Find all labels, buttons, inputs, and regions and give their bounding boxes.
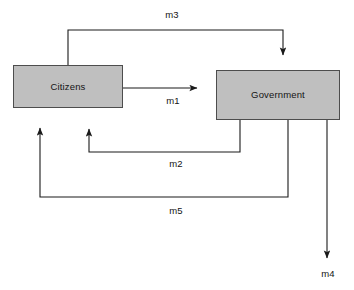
edge-label-m2: m2: [169, 159, 183, 169]
edge-label-m5: m5: [169, 206, 183, 216]
edge-m2-path: [89, 120, 240, 152]
node-government[interactable]: Government: [216, 70, 340, 120]
edge-label-m1: m1: [166, 96, 180, 106]
node-citizens[interactable]: Citizens: [13, 65, 123, 108]
edge-m3-path: [68, 30, 283, 65]
node-government-label: Government: [251, 90, 305, 100]
diagram-edges-layer: [0, 0, 354, 290]
edge-m5-path: [40, 120, 288, 197]
node-citizens-label: Citizens: [51, 82, 86, 92]
edge-label-m4: m4: [321, 269, 335, 279]
diagram-canvas: Citizens Government m3 m1 m2 m5 m4: [0, 0, 354, 290]
edge-label-m3: m3: [165, 10, 179, 20]
